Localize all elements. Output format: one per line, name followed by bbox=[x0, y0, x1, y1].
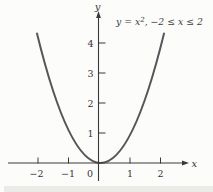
y-axis-arrowhead-icon bbox=[96, 11, 101, 18]
function-plot: −2 −1 0 1 2 4 3 2 1 x y y = x2, −2 ≤ x ≤… bbox=[0, 0, 213, 192]
x-tick-label-minus1: −1 bbox=[61, 168, 75, 179]
x-axis-arrowhead-icon bbox=[182, 161, 189, 166]
x-tick-label-2: 2 bbox=[157, 168, 163, 179]
parabola-figure-svg: −2 −1 0 1 2 4 3 2 1 x y y = x2, −2 ≤ x ≤… bbox=[0, 0, 213, 192]
equation-domain: , −2 ≤ x ≤ 2 bbox=[145, 16, 203, 27]
y-axis-label: y bbox=[94, 1, 101, 12]
y-tick-label-3: 3 bbox=[87, 68, 93, 79]
y-tick-label-1: 1 bbox=[87, 128, 93, 139]
origin-label: 0 bbox=[87, 168, 93, 179]
parabola-curve bbox=[37, 34, 164, 164]
equation-annotation: y = x2, −2 ≤ x ≤ 2 bbox=[115, 16, 203, 28]
x-tick-label-minus2: −2 bbox=[29, 168, 43, 179]
x-axis-label: x bbox=[192, 158, 198, 169]
y-tick-label-2: 2 bbox=[87, 98, 93, 109]
y-tick-label-4: 4 bbox=[87, 38, 93, 49]
scan-artifact-band bbox=[4, 186, 213, 192]
equation-base: y = x bbox=[115, 16, 141, 27]
x-tick-label-1: 1 bbox=[127, 168, 133, 179]
